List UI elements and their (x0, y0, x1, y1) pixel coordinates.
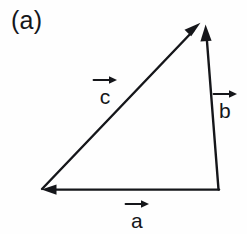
vector-a-label-text: a (131, 210, 143, 231)
panel-label: (a) (11, 8, 42, 33)
vector-c-overbar-arrow-icon (92, 74, 118, 85)
vector-a-overbar-arrow-icon (124, 198, 150, 209)
vector-c-arrow (42, 23, 201, 189)
vector-b-arrowhead (200, 25, 211, 42)
vector-a-label: a (124, 198, 150, 231)
vector-b-label-text: b (219, 100, 231, 121)
vector-b-overbar-arrow-icon (212, 88, 238, 99)
vector-c-label: c (92, 74, 118, 107)
vector-c-label-text: c (100, 86, 111, 107)
vector-triangle-figure: (a) c b a (0, 0, 247, 234)
vector-b-label: b (212, 88, 238, 121)
vector-a-arrow (42, 184, 220, 194)
vector-c-arrowhead (185, 23, 201, 36)
vector-c-shaft (42, 31, 194, 190)
